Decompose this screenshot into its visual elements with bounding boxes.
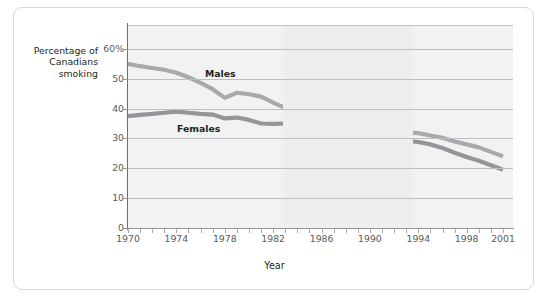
x-minor-tick-1974	[176, 229, 177, 233]
x-minor-tick-1986	[322, 229, 323, 233]
x-minor-tick-1998	[467, 229, 468, 233]
x-minor-tick-1993	[406, 229, 407, 233]
x-minor-tick-1978	[225, 229, 226, 233]
x-minor-tick-1991	[382, 229, 383, 233]
plot-top-border	[128, 25, 513, 26]
gridline-60	[128, 49, 513, 50]
x-minor-tick-1996	[443, 229, 444, 233]
x-tick-label-2001: 2001	[491, 233, 515, 244]
y-tick-mark-10	[123, 198, 128, 199]
gridline-10	[128, 198, 513, 199]
x-tick-label-1990: 1990	[358, 233, 382, 244]
x-minor-tick-1999	[479, 229, 480, 233]
x-minor-tick-1988	[346, 229, 347, 233]
x-minor-tick-1972	[152, 229, 153, 233]
x-minor-tick-1977	[213, 229, 214, 233]
x-minor-tick-1973	[164, 229, 165, 233]
series-label-females: Females	[177, 123, 220, 134]
y-tick-label-60: 60%	[98, 43, 124, 54]
y-tick-label-30: 30	[98, 132, 124, 143]
y-tick-mark-60	[123, 49, 128, 50]
x-minor-tick-1985	[309, 229, 310, 233]
x-minor-tick-1990	[370, 229, 371, 233]
gridline-40	[128, 109, 513, 110]
x-minor-tick-1981	[261, 229, 262, 233]
x-minor-tick-1980	[249, 229, 250, 233]
y-tick-label-20: 20	[98, 162, 124, 173]
x-minor-tick-1997	[455, 229, 456, 233]
gridline-50	[128, 79, 513, 80]
x-minor-tick-1976	[201, 229, 202, 233]
x-tick-label-1970: 1970	[116, 233, 140, 244]
x-tick-label-1974: 1974	[165, 233, 189, 244]
x-minor-tick-1987	[334, 229, 335, 233]
x-minor-tick-1971	[140, 229, 141, 233]
y-tick-label-50: 50	[98, 73, 124, 84]
x-axis-title: Year	[0, 260, 549, 271]
y-tick-mark-40	[123, 109, 128, 110]
x-tick-label-1998: 1998	[455, 233, 479, 244]
y-tick-mark-50	[123, 79, 128, 80]
gridline-30	[128, 138, 513, 139]
x-minor-tick-1995	[430, 229, 431, 233]
x-minor-tick-1992	[394, 229, 395, 233]
x-minor-tick-2000	[491, 229, 492, 233]
y-tick-label-10: 10	[98, 192, 124, 203]
x-minor-tick-1970	[128, 229, 129, 233]
gridline-20	[128, 168, 513, 169]
x-minor-tick-1982	[273, 229, 274, 233]
y-tick-label-0: 0	[98, 222, 124, 233]
x-minor-tick-1984	[297, 229, 298, 233]
x-minor-tick-1989	[358, 229, 359, 233]
y-axis-title: Percentage of Canadians smoking	[14, 45, 98, 79]
x-tick-label-1986: 1986	[310, 233, 334, 244]
x-minor-tick-1994	[418, 229, 419, 233]
y-tick-mark-20	[123, 168, 128, 169]
x-minor-tick-2001	[503, 229, 504, 233]
x-tick-label-1994: 1994	[406, 233, 430, 244]
series-label-males: Males	[205, 68, 236, 79]
y-tick-mark-30	[123, 138, 128, 139]
x-tick-label-1978: 1978	[213, 233, 237, 244]
y-tick-label-40: 40	[98, 103, 124, 114]
x-tick-label-1982: 1982	[261, 233, 285, 244]
x-minor-tick-1983	[285, 229, 286, 233]
x-minor-tick-1975	[188, 229, 189, 233]
x-minor-tick-1979	[237, 229, 238, 233]
